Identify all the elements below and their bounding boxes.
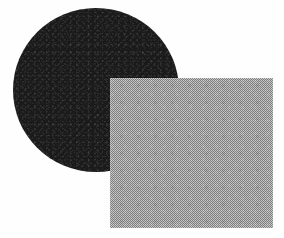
gray-square-shape — [110, 78, 273, 228]
figure-canvas — [0, 0, 284, 238]
